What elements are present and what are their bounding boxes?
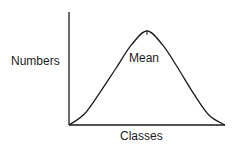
mean-annotation-label: Mean — [129, 51, 159, 65]
bell-curve-chart — [0, 0, 234, 147]
x-axis-label: Classes — [120, 129, 163, 143]
y-axis-label: Numbers — [11, 54, 60, 68]
distribution-curve — [69, 31, 225, 125]
